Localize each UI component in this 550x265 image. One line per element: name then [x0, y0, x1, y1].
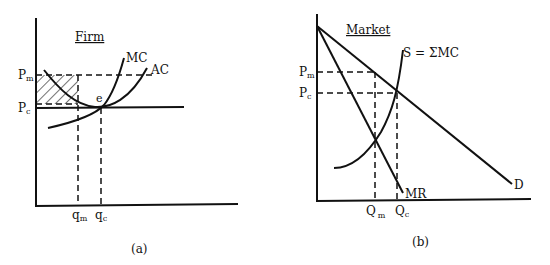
profit-area: [36, 75, 78, 104]
market-supply-label: S = ΣMC: [403, 46, 459, 60]
firm-qc-label: qc: [95, 208, 108, 223]
firm-ac-label: AC: [150, 63, 169, 77]
market-qc-label: Qc: [395, 204, 410, 219]
firm-title: Firm: [75, 30, 105, 44]
firm-qm-label: qm: [72, 208, 88, 223]
market-mr-label: MR: [405, 187, 427, 201]
firm-mc-label: MC: [126, 51, 147, 65]
market-pc-label: Pc: [299, 86, 312, 101]
market-qm-label: Qm: [366, 204, 386, 220]
market-title: Market: [346, 23, 391, 37]
firm-pm-label: Pm: [18, 68, 34, 83]
firm-x-axis: [35, 204, 238, 206]
diagram-canvas: Firm MC AC e Pm Pc qm qc (a) Market S = …: [0, 0, 550, 265]
firm-caption: (a): [131, 242, 148, 256]
market-demand-label: D: [514, 178, 524, 192]
firm-point-e: e: [96, 92, 103, 105]
market-panel: Market S = ΣMC MR D Pm Pc Qm Qc (b): [299, 14, 531, 249]
firm-panel: Firm MC AC e Pm Pc qm qc (a): [18, 18, 238, 256]
firm-pc-line: [36, 107, 184, 108]
market-pm-label: Pm: [299, 65, 315, 80]
firm-pc-label: Pc: [18, 101, 31, 116]
market-caption: (b): [412, 235, 429, 249]
